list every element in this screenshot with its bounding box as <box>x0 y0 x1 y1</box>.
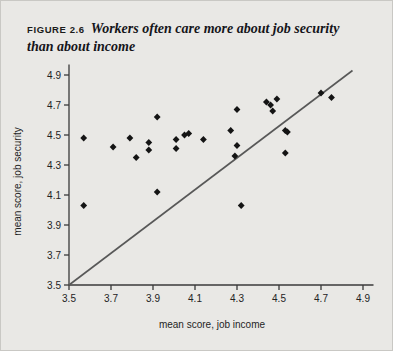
data-point-marker <box>200 136 207 143</box>
data-point-marker <box>127 135 134 142</box>
data-point-marker <box>173 136 180 143</box>
x-tick-label: 4.3 <box>230 293 244 304</box>
data-point-marker <box>227 127 234 134</box>
y-tick-label: 3.9 <box>35 220 61 231</box>
data-point-marker <box>154 189 161 196</box>
y-tick-label: 3.5 <box>35 280 61 291</box>
y-tick-label: 4.5 <box>35 130 61 141</box>
y-axis-title: mean score, job security <box>12 82 23 282</box>
data-point-marker <box>110 144 117 151</box>
data-point-marker <box>282 150 289 157</box>
data-point-marker <box>145 139 152 146</box>
data-point-marker <box>238 202 245 209</box>
data-point-marker <box>133 154 140 161</box>
y-tick-label: 4.7 <box>35 100 61 111</box>
x-axis-title: mean score, job income <box>69 319 355 330</box>
x-tick-label: 3.7 <box>104 293 118 304</box>
identity-reference-line <box>69 71 353 286</box>
data-point-marker <box>154 114 161 121</box>
data-point-marker <box>145 147 152 154</box>
y-tick-label: 4.3 <box>35 160 61 171</box>
data-point-marker <box>274 96 281 103</box>
x-tick-label: 4.5 <box>272 293 286 304</box>
y-tick-label: 3.7 <box>35 250 61 261</box>
scatter-plot: 3.53.73.94.14.34.54.74.93.53.73.94.14.34… <box>1 1 393 351</box>
figure-frame: FIGURE 2.6Workers often care more about … <box>0 0 393 351</box>
y-tick-label: 4.1 <box>35 190 61 201</box>
data-point-marker <box>234 106 241 113</box>
x-tick-label: 3.9 <box>146 293 160 304</box>
x-tick-label: 4.1 <box>188 293 202 304</box>
x-tick-label: 4.7 <box>314 293 328 304</box>
data-point-marker <box>234 142 241 149</box>
x-tick-label: 3.5 <box>62 293 76 304</box>
data-point-marker <box>269 108 276 115</box>
data-point-marker <box>80 135 87 142</box>
y-tick-label: 4.9 <box>35 70 61 81</box>
data-point-marker <box>328 94 335 101</box>
x-tick-label: 4.9 <box>356 293 370 304</box>
data-point-marker <box>80 202 87 209</box>
data-point-marker <box>173 145 180 152</box>
